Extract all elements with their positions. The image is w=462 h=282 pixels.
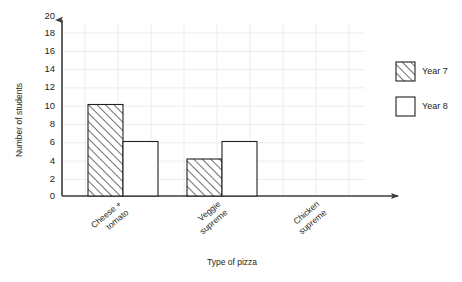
y-tick-10: 10 xyxy=(44,100,55,111)
y-tick-0: 0 xyxy=(50,190,55,201)
bar-chart-figure: 0 2 4 6 8 10 12 14 16 18 20 Cheese + tom… xyxy=(0,0,462,282)
legend-swatch-year-8 xyxy=(396,97,415,116)
chart-canvas: 0 2 4 6 8 10 12 14 16 18 20 Cheese + tom… xyxy=(0,0,462,282)
y-tick-4: 4 xyxy=(50,155,55,166)
bar-year8-veggie-supreme xyxy=(222,142,257,197)
y-tick-8: 8 xyxy=(50,118,55,129)
y-tick-16: 16 xyxy=(44,45,55,56)
y-tick-2: 2 xyxy=(50,173,55,184)
x-axis-title: Type of pizza xyxy=(207,257,257,267)
legend-label-year-8: Year 8 xyxy=(422,101,448,111)
y-tick-18: 18 xyxy=(44,27,55,38)
y-axis-tick-labels: 0 2 4 6 8 10 12 14 16 18 20 xyxy=(44,10,55,201)
y-tick-14: 14 xyxy=(44,63,55,74)
bar-year7-veggie-supreme xyxy=(187,159,222,196)
cat-label-veggie-supreme: Veggie supreme xyxy=(191,199,230,237)
bar-year8-cheese-tomato xyxy=(123,142,158,197)
cat-label-cheese-tomato: Cheese + tomato xyxy=(89,199,131,239)
chart-legend: Year 7 Year 8 xyxy=(396,62,448,116)
y-axis-title: Number of students xyxy=(14,83,24,157)
y-tick-6: 6 xyxy=(50,136,55,147)
x-axis-category-labels: Cheese + tomato Veggie supreme Chicken s… xyxy=(89,199,329,239)
legend-swatch-year-7 xyxy=(396,62,415,81)
bar-year7-cheese-tomato xyxy=(88,105,123,197)
y-tick-20: 20 xyxy=(44,10,55,21)
legend-label-year-7: Year 7 xyxy=(422,66,448,76)
cat-label-chicken-supreme: Chicken supreme xyxy=(290,199,329,237)
y-tick-12: 12 xyxy=(44,81,55,92)
